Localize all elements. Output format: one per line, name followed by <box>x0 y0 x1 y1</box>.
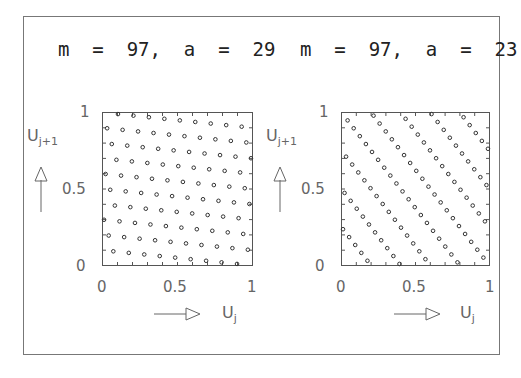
data-point <box>472 167 476 171</box>
data-point <box>395 182 399 186</box>
data-point <box>243 186 247 190</box>
data-point <box>180 226 184 230</box>
data-point <box>474 131 478 135</box>
data-point <box>176 164 180 168</box>
panel-1-x-tick-1: 1 <box>247 278 257 296</box>
data-point <box>173 256 177 260</box>
data-point <box>234 155 238 159</box>
data-point <box>245 141 249 145</box>
y-label-sub: j+1 <box>278 135 297 148</box>
data-point <box>407 197 411 201</box>
data-point <box>434 156 438 160</box>
data-point <box>459 188 463 192</box>
data-point <box>410 125 414 129</box>
data-point <box>428 149 432 153</box>
panel-2-right-arrow-icon <box>393 307 441 321</box>
data-point <box>198 136 202 140</box>
data-point <box>462 115 466 119</box>
data-point <box>124 190 128 194</box>
data-point <box>471 204 475 208</box>
data-point <box>385 246 389 250</box>
y-label-main: U <box>266 126 278 145</box>
data-point <box>454 144 458 148</box>
panel-1-y-tick-0: 0 <box>76 257 86 275</box>
data-point <box>190 212 194 216</box>
data-point <box>350 163 354 167</box>
data-point <box>448 136 452 140</box>
data-point <box>465 196 469 200</box>
data-point <box>355 207 359 211</box>
data-point <box>479 175 483 179</box>
data-point <box>217 199 221 203</box>
data-point <box>206 213 210 217</box>
data-point <box>376 158 380 162</box>
data-point <box>445 208 449 212</box>
data-point <box>457 224 461 228</box>
data-point <box>133 221 137 225</box>
data-point <box>442 128 446 132</box>
data-point <box>118 220 122 224</box>
data-point <box>360 251 364 255</box>
panel-2-y-tick-0.5: 0.5 <box>301 180 325 198</box>
data-point <box>453 180 457 184</box>
data-point <box>127 251 131 255</box>
data-point <box>373 231 377 235</box>
data-point <box>189 257 193 261</box>
data-point <box>138 237 142 241</box>
panel-1-x-tick-0.5: 0.5 <box>163 278 187 296</box>
data-point <box>163 117 167 121</box>
data-point <box>130 160 134 164</box>
data-point <box>125 144 129 148</box>
data-point <box>107 234 111 238</box>
data-point <box>469 240 473 244</box>
panel-2-y-tick-0: 0 <box>315 257 325 275</box>
data-point <box>237 216 241 220</box>
data-point <box>483 220 487 224</box>
data-point <box>152 131 156 135</box>
data-point <box>167 133 171 137</box>
data-point <box>402 153 406 157</box>
panel-1-y-axis-label: Uj+1 <box>27 126 58 148</box>
data-point <box>240 125 244 129</box>
data-point <box>210 229 214 233</box>
data-point <box>209 122 213 126</box>
data-point <box>413 205 417 209</box>
data-point <box>147 115 151 119</box>
data-point <box>379 238 383 242</box>
data-point <box>353 243 357 247</box>
panel-2-y-tick-1: 1 <box>319 103 329 121</box>
data-point <box>136 130 140 134</box>
data-point <box>169 240 173 244</box>
data-point <box>115 158 119 162</box>
data-point <box>181 180 185 184</box>
data-point <box>364 142 368 146</box>
data-point <box>223 169 227 173</box>
data-point <box>436 120 440 124</box>
data-point <box>450 253 454 257</box>
panel-1-y-tick-0.5: 0.5 <box>62 180 86 198</box>
data-point <box>399 226 403 230</box>
data-point <box>204 259 208 263</box>
data-point <box>443 245 447 249</box>
data-point <box>366 259 370 263</box>
data-point <box>161 163 165 167</box>
data-point <box>110 142 114 146</box>
panel-2-scatter-plot <box>341 112 490 266</box>
x-label-main: U <box>460 303 472 322</box>
data-point <box>155 193 159 197</box>
data-point <box>405 234 409 238</box>
data-point <box>187 150 191 154</box>
data-point <box>218 153 222 157</box>
data-point <box>358 134 362 138</box>
data-point <box>416 133 420 137</box>
data-point <box>408 161 412 165</box>
data-point <box>414 169 418 173</box>
panel-1-title: m = 97, a = 29 <box>58 38 275 60</box>
data-point <box>197 182 201 186</box>
data-point <box>158 254 162 258</box>
data-point <box>427 185 431 189</box>
panel-2-x-tick-0: 0 <box>336 278 346 296</box>
data-point <box>347 235 351 239</box>
data-point <box>372 114 376 118</box>
data-point <box>144 207 148 211</box>
